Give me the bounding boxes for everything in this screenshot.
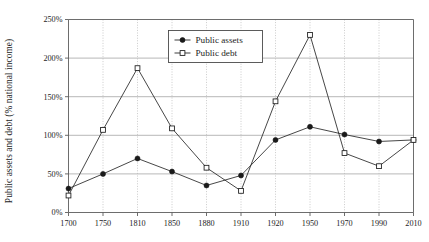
- line-chart-plot: 0%50%100%150%200%250% 170017501810185018…: [0, 0, 429, 242]
- x-tick-label: 1990: [371, 219, 387, 228]
- data-point-marker: [204, 183, 209, 188]
- data-point-marker: [66, 193, 71, 198]
- x-tick-label: 1850: [164, 219, 180, 228]
- x-tick-label: 1750: [95, 219, 111, 228]
- data-point-marker: [411, 138, 416, 143]
- x-tick-label: 1910: [233, 219, 249, 228]
- data-point-marker: [377, 139, 382, 144]
- x-axis-tick-labels: 1700175018101850188019101920195019701990…: [60, 219, 421, 228]
- data-point-marker: [135, 66, 140, 71]
- x-tick-label: 1880: [198, 219, 214, 228]
- legend-label: Public debt: [196, 48, 238, 58]
- data-point-marker: [239, 188, 244, 193]
- data-point-marker: [170, 169, 175, 174]
- data-point-marker: [204, 165, 209, 170]
- data-point-marker: [239, 173, 244, 178]
- y-tick-label: 250%: [43, 15, 62, 24]
- data-point-marker: [342, 132, 347, 137]
- legend-marker-filled-circle-icon: [180, 38, 185, 43]
- data-point-marker: [377, 164, 382, 169]
- y-tick-label: 0%: [52, 208, 63, 217]
- y-tick-label: 150%: [43, 93, 62, 102]
- x-tick-label: 1700: [60, 219, 76, 228]
- legend-label: Public assets: [196, 35, 244, 45]
- x-tick-label: 2010: [405, 219, 421, 228]
- data-point-marker: [273, 99, 278, 104]
- data-point-marker: [101, 127, 106, 132]
- y-tick-label: 100%: [43, 131, 62, 140]
- chart-legend: Public assetsPublic debt: [169, 31, 263, 63]
- data-point-marker: [101, 171, 106, 176]
- data-point-marker: [308, 33, 313, 38]
- x-tick-label: 1810: [129, 219, 145, 228]
- data-point-marker: [273, 137, 278, 142]
- chart-figure: Public assets and debt (% national incom…: [0, 0, 429, 242]
- y-axis-tick-labels: 0%50%100%150%200%250%: [43, 15, 62, 217]
- legend-marker-open-square-icon: [180, 51, 185, 56]
- y-tick-label: 50%: [47, 170, 62, 179]
- x-tick-label: 1970: [336, 219, 352, 228]
- x-tick-label: 1950: [302, 219, 318, 228]
- x-tick-label: 1920: [267, 219, 283, 228]
- y-tick-label: 200%: [43, 54, 62, 63]
- data-point-marker: [170, 126, 175, 131]
- data-point-marker: [342, 151, 347, 156]
- data-point-marker: [308, 124, 313, 129]
- data-point-marker: [135, 156, 140, 161]
- data-point-marker: [66, 186, 71, 191]
